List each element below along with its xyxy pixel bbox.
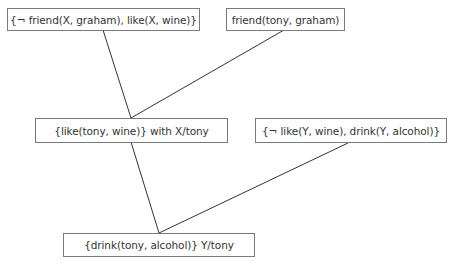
edge-clause3-resolvent2	[159, 143, 348, 233]
edge-clause1-resolvent1	[103, 30, 131, 118]
node-label: {¬ friend(X, graham), like(X, wine)}	[10, 14, 197, 26]
node-label: {drink(tony, alcohol)} Y/tony	[84, 239, 234, 251]
node-resolvent2: {drink(tony, alcohol)} Y/tony	[63, 233, 255, 257]
node-label: friend(tony, graham)	[232, 14, 340, 26]
node-clause1: {¬ friend(X, graham), like(X, wine)}	[7, 8, 200, 31]
node-clause3: {¬ like(Y, wine), drink(Y, alcohol)}	[255, 118, 447, 143]
node-label: {like(tony, wine)} with X/tony	[54, 125, 208, 137]
edge-clause2-resolvent1	[131, 30, 284, 118]
node-label: {¬ like(Y, wine), drink(Y, alcohol)}	[262, 125, 440, 137]
node-resolvent1: {like(tony, wine)} with X/tony	[35, 118, 228, 143]
node-clause2: friend(tony, graham)	[226, 8, 345, 31]
edge-resolvent1-resolvent2	[131, 142, 159, 233]
